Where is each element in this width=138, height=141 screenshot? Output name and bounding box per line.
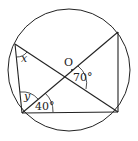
- label-70: 70°: [73, 71, 93, 84]
- label-x: x: [21, 52, 28, 65]
- geometry-diagram: x O 70° y 40°: [0, 0, 138, 141]
- label-40: 40°: [35, 100, 55, 113]
- diagonal-ac: [15, 44, 118, 112]
- label-o: O: [64, 56, 73, 69]
- label-y: y: [23, 90, 31, 103]
